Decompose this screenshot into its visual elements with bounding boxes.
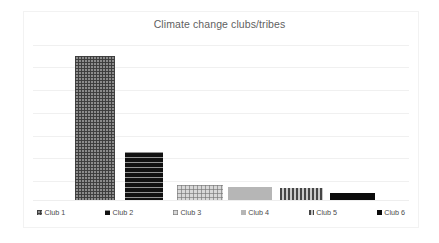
bar-slot-club-2 [125,45,163,200]
bar-club-6[interactable] [330,193,375,200]
legend-item-club-5[interactable]: Club 5 [309,209,337,216]
legend-label: Club 4 [248,209,269,216]
bar-club-2[interactable] [125,152,163,200]
bar-club-5[interactable] [280,188,323,200]
bar-slot-club-4 [228,45,272,200]
legend-item-club-4[interactable]: Club 4 [241,209,269,216]
legend-swatch-icon [37,210,42,215]
legend-item-club-3[interactable]: Club 3 [173,209,201,216]
bar-slot-club-6 [330,45,375,200]
legend-swatch-icon [377,210,382,215]
bar-slot-club-5 [280,45,323,200]
legend-label: Club 2 [112,209,133,216]
legend-label: Club 6 [384,209,405,216]
chart-legend: Club 1 Club 2 Club 3 Club 4 Club 5 Club … [33,206,409,220]
legend-item-club-2[interactable]: Club 2 [105,209,133,216]
legend-item-club-6[interactable]: Club 6 [377,209,405,216]
legend-label: Club 5 [316,209,337,216]
bar-slot-club-1 [75,45,115,200]
legend-item-club-1[interactable]: Club 1 [37,209,65,216]
legend-swatch-icon [105,210,110,215]
bar-club-3[interactable] [177,185,223,201]
bar-club-4[interactable] [228,187,272,200]
bars-layer [33,45,409,200]
legend-swatch-icon [309,210,314,215]
category-axis-baseline [33,200,409,201]
legend-swatch-icon [241,210,246,215]
bar-club-1[interactable] [75,56,115,200]
legend-swatch-icon [173,210,178,215]
chart-canvas: Climate change clubs/tribes [0,0,439,243]
legend-label: Club 1 [45,209,66,216]
bar-slot-club-3 [177,45,223,200]
legend-label: Club 3 [180,209,201,216]
chart-title: Climate change clubs/tribes [0,18,439,30]
